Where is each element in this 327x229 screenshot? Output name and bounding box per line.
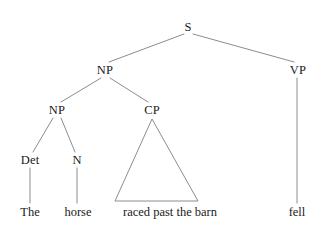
node-det: Det	[21, 154, 40, 167]
node-n: N	[72, 154, 81, 167]
np-to-cp	[110, 78, 148, 102]
edge-group	[30, 34, 297, 203]
node-s: S	[184, 21, 191, 34]
node-cp: CP	[144, 104, 160, 117]
np-to-det	[33, 118, 53, 152]
node-np-inner: NP	[49, 104, 65, 117]
np-to-n	[61, 118, 75, 152]
cp-triangle	[115, 119, 198, 201]
np-to-np	[61, 78, 101, 102]
terminal-fell: fell	[289, 206, 306, 219]
terminal-raced-past-the-barn: raced past the barn	[123, 206, 217, 219]
terminal-the: The	[20, 206, 39, 219]
s-to-np	[109, 34, 184, 62]
syntax-tree-diagram: S NP VP NP CP Det N The horse raced past…	[0, 0, 327, 229]
terminal-horse: horse	[64, 206, 91, 219]
node-vp: VP	[290, 64, 306, 77]
s-to-vp	[193, 34, 294, 62]
node-np-top: NP	[97, 64, 113, 77]
triangle-group	[115, 119, 198, 201]
